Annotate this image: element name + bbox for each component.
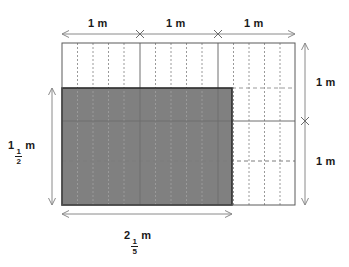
shaded-region-fill	[62, 88, 232, 205]
bottom-label-whole: 2	[124, 229, 130, 241]
bottom-label-denominator: 5	[133, 247, 138, 256]
left-label-denominator: 2	[17, 157, 22, 166]
bottom-label-unit: m	[141, 229, 151, 241]
right-label-1m-bottom: 1 m	[316, 155, 336, 167]
top-label-1m-third: 1 m	[244, 17, 264, 29]
right-label-1m-top: 1 m	[316, 76, 336, 88]
area-model-figure: 1 m 1 m 1 m 1 m 1 m 112m 215m	[0, 0, 349, 267]
left-label-whole: 1	[8, 139, 14, 151]
left-label-unit: m	[25, 139, 35, 151]
left-dimension-line	[49, 88, 56, 205]
top-dimension-line	[62, 30, 295, 38]
top-label-1m-second: 1 m	[166, 17, 186, 29]
area-model-diagram	[0, 0, 349, 267]
bottom-dimension-line	[62, 211, 232, 218]
right-dimension-line	[301, 43, 309, 205]
left-label-fraction: 12	[15, 148, 22, 166]
left-label-numerator: 1	[17, 148, 22, 157]
bottom-label-fraction: 15	[131, 238, 138, 256]
left-label-height: 112m	[8, 139, 35, 166]
bottom-label-numerator: 1	[133, 238, 138, 247]
top-label-1m-first: 1 m	[88, 17, 108, 29]
bottom-label-width: 215m	[124, 229, 151, 256]
